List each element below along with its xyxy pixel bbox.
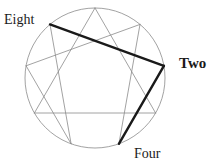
enneagram-diagram-page: Eight Two Four xyxy=(0,0,221,164)
enneagram-edge-6-to-9 xyxy=(34,8,95,113)
label-eight: Eight xyxy=(4,13,34,27)
label-four: Four xyxy=(134,147,160,161)
label-two: Two xyxy=(179,56,206,71)
enneagram-circle xyxy=(25,8,165,148)
enneagram-highlighted-path xyxy=(50,24,164,143)
enneagram-thin-edges xyxy=(26,8,164,144)
